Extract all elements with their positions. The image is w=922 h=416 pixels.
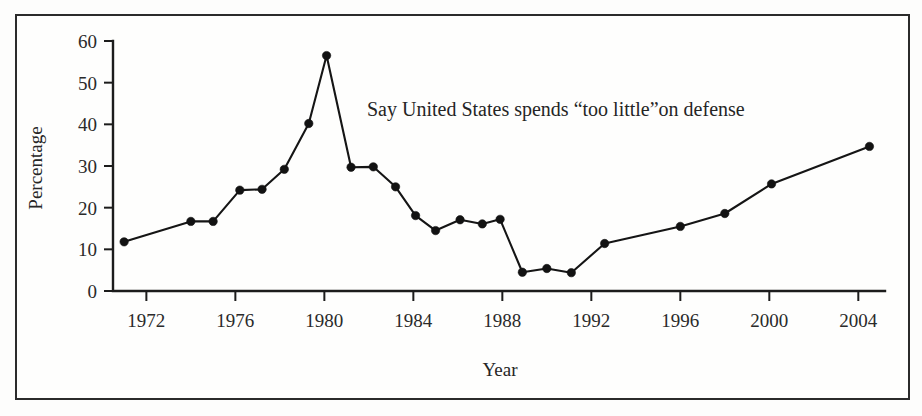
- y-tick-label: 40: [78, 114, 97, 135]
- x-tick-label: 1980: [305, 310, 343, 331]
- data-point: [347, 163, 355, 171]
- data-point: [496, 215, 504, 223]
- data-point: [767, 180, 775, 188]
- y-tick-label: 20: [78, 198, 97, 219]
- x-tick-label: 2004: [839, 310, 878, 331]
- data-point: [120, 238, 128, 246]
- x-tick-label: 2000: [750, 310, 788, 331]
- data-point-markers: [120, 51, 874, 276]
- data-point: [369, 163, 377, 171]
- chart-annotation: Say United States spends “too little”on …: [367, 98, 745, 121]
- x-tick-label: 1996: [661, 310, 699, 331]
- data-point: [280, 165, 288, 173]
- x-axis-tick-labels: 197219761980198419881992199620002004: [127, 310, 877, 331]
- data-point: [865, 142, 873, 150]
- data-point: [305, 119, 313, 127]
- y-axis-title: Percentage: [25, 126, 46, 209]
- x-axis-title: Year: [482, 359, 518, 380]
- line-chart: 0102030405060 19721976198019841988199219…: [0, 0, 922, 416]
- data-point: [518, 268, 526, 276]
- data-point: [600, 239, 608, 247]
- data-point: [567, 268, 575, 276]
- data-point: [543, 264, 551, 272]
- x-tick-label: 1972: [127, 310, 165, 331]
- y-tick-label: 0: [88, 281, 98, 302]
- data-point: [391, 183, 399, 191]
- data-point: [322, 51, 330, 59]
- x-axis-ticks: [146, 291, 858, 301]
- data-point: [478, 220, 486, 228]
- y-axis-ticks: [104, 41, 113, 291]
- y-tick-label: 60: [78, 31, 97, 52]
- data-point: [721, 209, 729, 217]
- y-tick-label: 30: [78, 156, 97, 177]
- axis-lines: [113, 41, 885, 291]
- data-point: [676, 222, 684, 230]
- figure-container: 0102030405060 19721976198019841988199219…: [0, 0, 922, 416]
- x-tick-label: 1984: [394, 310, 433, 331]
- data-point: [236, 186, 244, 194]
- y-tick-label: 50: [78, 73, 97, 94]
- data-point: [209, 217, 217, 225]
- data-point: [431, 226, 439, 234]
- y-tick-label: 10: [78, 239, 97, 260]
- data-point: [258, 185, 266, 193]
- x-tick-label: 1992: [572, 310, 610, 331]
- data-point: [187, 217, 195, 225]
- data-point: [456, 216, 464, 224]
- x-tick-label: 1988: [483, 310, 521, 331]
- data-line-too-little: [124, 56, 869, 273]
- data-point: [411, 211, 419, 219]
- y-axis-tick-labels: 0102030405060: [78, 31, 97, 302]
- x-tick-label: 1976: [216, 310, 254, 331]
